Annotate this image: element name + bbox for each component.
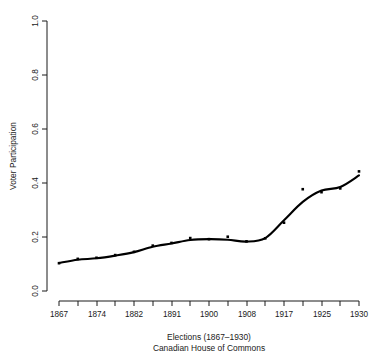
data-point [95,256,98,259]
x-tick-label-1930: 1930 [350,310,369,319]
data-point [208,238,211,241]
data-point [339,187,342,190]
y-tick-label-0.4: 0.4 [31,177,40,189]
x-axis-ticks [59,301,359,306]
data-point [189,237,192,240]
data-point [76,258,79,261]
data-point [151,244,154,247]
data-point-group [58,170,361,264]
x-axis: 1867 1874 1882 1891 1900 1908 1917 1925 … [50,301,369,353]
y-axis-ticks [42,21,47,291]
y-axis: 1.0 0.8 0.6 0.4 0.2 0.0 Voter Participat… [8,15,47,297]
data-point [58,262,61,265]
data-point [264,237,267,240]
x-axis-title-line1: Elections (1867–1930) [167,332,251,342]
smoothed-trend-line [59,175,359,262]
x-tick-label-1874: 1874 [88,310,107,319]
x-tick-label-1867: 1867 [50,310,69,319]
data-point [301,188,304,191]
data-point [283,221,286,224]
y-tick-label-0.8: 0.8 [31,69,40,81]
data-point [245,240,248,243]
x-tick-label-1882: 1882 [125,310,144,319]
x-tick-label-1891: 1891 [163,310,182,319]
x-axis-title-line2: Canadian House of Commons [153,343,265,353]
y-tick-label-0.2: 0.2 [31,231,40,243]
data-point [170,242,173,245]
x-tick-label-1900: 1900 [200,310,219,319]
data-point [226,235,229,238]
y-tick-label-0.0: 0.0 [31,285,40,297]
y-tick-label-1.0: 1.0 [31,15,40,27]
x-axis-tick-labels: 1867 1874 1882 1891 1900 1908 1917 1925 … [50,310,369,319]
plot-area [58,170,361,264]
y-tick-label-0.6: 0.6 [31,123,40,135]
data-point [320,191,323,194]
chart-figure: 1.0 0.8 0.6 0.4 0.2 0.0 Voter Participat… [0,0,378,363]
y-axis-tick-labels: 1.0 0.8 0.6 0.4 0.2 0.0 [31,15,40,297]
x-tick-label-1925: 1925 [313,310,332,319]
voter-participation-scatter-plot: 1.0 0.8 0.6 0.4 0.2 0.0 Voter Participat… [0,0,378,363]
data-point [133,251,136,254]
data-point [358,170,361,173]
y-axis-title: Voter Participation [8,122,18,190]
data-point [114,254,117,257]
x-tick-label-1917: 1917 [275,310,294,319]
x-tick-label-1908: 1908 [238,310,257,319]
